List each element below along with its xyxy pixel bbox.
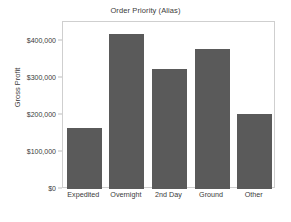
bar-chart: Order Priority (Alias) Gross Profit $0$1… xyxy=(0,0,291,222)
y-tick-label: $100,000 xyxy=(27,147,56,154)
y-axis-ticks: $0$100,000$200,000$300,000$400,000 xyxy=(0,0,62,222)
bar-2nd-day[interactable] xyxy=(152,69,187,189)
x-tick-label: Overnight xyxy=(105,190,148,199)
x-axis-ticks: ExpeditedOvernight2nd DayGroundOther xyxy=(62,190,275,204)
bar-ground[interactable] xyxy=(195,49,230,189)
y-tick-label: $400,000 xyxy=(27,36,56,43)
x-tick-label: Expedited xyxy=(62,190,105,199)
plot-area xyxy=(62,21,275,188)
x-tick-label: Ground xyxy=(190,190,233,199)
y-tick-label: $200,000 xyxy=(27,110,56,117)
y-tick-label: $0 xyxy=(48,185,56,192)
bar-expedited[interactable] xyxy=(67,128,102,189)
y-tick-label: $300,000 xyxy=(27,73,56,80)
x-tick-label: 2nd Day xyxy=(147,190,190,199)
x-tick-label: Other xyxy=(232,190,275,199)
bar-overnight[interactable] xyxy=(109,34,144,189)
bar-other[interactable] xyxy=(237,114,272,189)
bars-layer xyxy=(63,22,276,189)
